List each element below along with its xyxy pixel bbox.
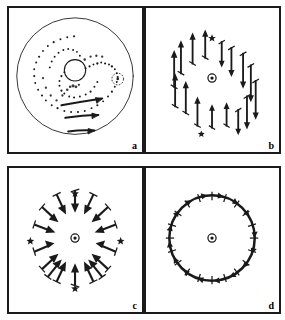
vector-up-8 (209, 104, 215, 129)
vector-inward-11 (33, 241, 55, 256)
shear-flow-arrows (61, 98, 102, 134)
panel-c-graphic (9, 168, 142, 312)
shear-arrow-3 (68, 129, 94, 134)
vector-inward-3 (92, 204, 111, 223)
center-marker-icon (208, 74, 216, 82)
vector-up-4 (178, 40, 185, 75)
figure-root: a (0, 0, 285, 320)
vector-down-2 (240, 52, 247, 89)
vector-up-6 (202, 30, 209, 60)
vector-down-4 (252, 79, 259, 120)
panel-a: a (7, 6, 144, 154)
vector-inward-13 (39, 204, 58, 223)
panel-d-label: d (268, 301, 274, 311)
vector-up-3 (183, 81, 190, 115)
panel-d: d (144, 166, 281, 314)
vector-inward-2 (84, 192, 97, 214)
vector-inward-12 (33, 220, 56, 233)
vector-down-6 (235, 108, 241, 135)
inner-core-circle (64, 60, 85, 81)
vector-inward-5 (96, 241, 118, 256)
vector-up-1 (171, 50, 178, 89)
vector-up-5 (189, 32, 196, 65)
spiral-arm-1 (33, 35, 119, 113)
vector-down-1 (228, 46, 235, 77)
panel-b-graphic (146, 8, 279, 152)
vector-up-9 (223, 102, 229, 127)
vector-inward-14 (53, 192, 66, 214)
vector-inward-4 (95, 220, 118, 233)
panel-d-graphic (146, 168, 279, 312)
vector-up-2 (172, 73, 179, 108)
panel-row-bottom: c (0, 166, 285, 314)
center-marker-icon (208, 234, 216, 242)
vector-inward-8 (71, 263, 80, 287)
center-marker-icon (71, 234, 79, 242)
companion-core-dot (116, 78, 119, 81)
spiral-arm-2 (49, 48, 99, 99)
panel-c-label: c (133, 301, 137, 311)
vector-down-7 (219, 40, 225, 67)
star-marks (198, 34, 216, 137)
panel-a-graphic (9, 8, 142, 152)
vector-field-dipole (171, 30, 259, 136)
shear-arrow-2 (65, 113, 98, 118)
panel-b: b (144, 6, 281, 154)
panel-b-label: b (268, 141, 274, 151)
vector-up-7 (194, 97, 201, 128)
panel-c: c (7, 166, 144, 314)
panel-row-top: a (0, 6, 285, 154)
vector-down-5 (244, 95, 251, 130)
shear-arrow-1 (61, 98, 102, 106)
panel-a-label: a (132, 141, 137, 151)
